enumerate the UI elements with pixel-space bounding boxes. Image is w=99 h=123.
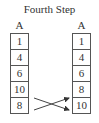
swap-arrows-icon — [0, 0, 99, 123]
